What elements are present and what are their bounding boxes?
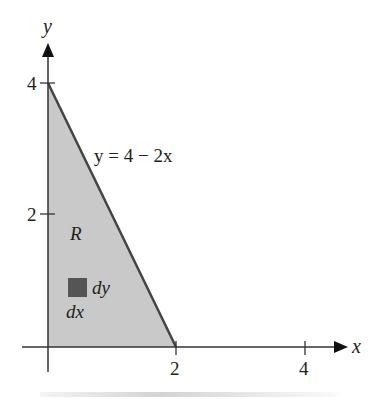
x-tick-label-4: 4 xyxy=(299,358,309,379)
x-axis-arrow-icon xyxy=(334,341,348,353)
y-axis-label: y xyxy=(41,15,52,38)
y-axis-arrow-icon xyxy=(42,43,54,57)
x-tick-label-2: 2 xyxy=(170,358,180,379)
area-element xyxy=(68,278,87,297)
region-label: R xyxy=(69,223,82,244)
dy-label: dy xyxy=(92,277,111,298)
x-axis-label: x xyxy=(351,335,361,357)
dx-label: dx xyxy=(66,301,85,322)
page-edge-shadow xyxy=(40,392,340,397)
curve-label: y = 4 − 2x xyxy=(94,145,173,166)
region-diagram: 4 2 2 4 y x y = 4 − 2x R dy dx xyxy=(0,0,384,399)
y-tick-label-2: 2 xyxy=(27,204,37,225)
y-tick-label-4: 4 xyxy=(27,73,37,94)
